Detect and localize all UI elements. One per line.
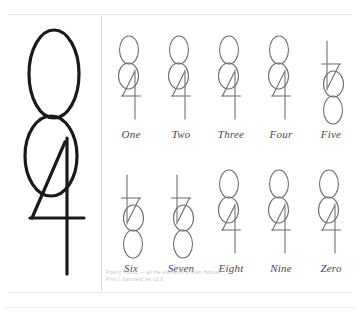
numeral-glyph-three	[214, 34, 248, 126]
numeral-cell-two: Two	[158, 22, 204, 140]
numeral-row: Six Seven	[108, 156, 354, 274]
numeral-glyph-eight	[214, 168, 248, 260]
numeral-glyph-six	[114, 168, 148, 260]
numeral-row: One Two	[108, 22, 354, 140]
numeral-label: Three	[218, 129, 244, 140]
numeral-glyph-four	[264, 34, 298, 126]
numeral-cell-six: Six	[108, 156, 154, 274]
vertical-divider	[101, 16, 102, 290]
numeral-label: Four	[270, 129, 293, 140]
attribution-block: Poetry ©2011 — all the elements of Alan …	[106, 269, 286, 282]
numeral-cell-seven: Seven	[158, 156, 204, 274]
numeral-glyph-seven	[164, 168, 198, 260]
poster-page: One Two	[0, 0, 359, 314]
numeral-cell-one: One	[108, 22, 154, 140]
numeral-label: Two	[172, 129, 191, 140]
numeral-label: Five	[321, 129, 341, 140]
numeral-label: One	[122, 129, 141, 140]
top-rule	[8, 14, 352, 15]
numeral-glyph-nine	[264, 168, 298, 260]
numeral-cell-zero: Zero	[308, 156, 354, 274]
bottom-rule	[8, 292, 352, 293]
numeral-glyph-five	[314, 34, 348, 126]
numeral-cell-three: Three	[208, 22, 254, 140]
numeral-glyph-two	[164, 34, 198, 126]
numeral-cell-five: Five	[308, 22, 354, 140]
numeral-cell-nine: Nine	[258, 156, 304, 274]
numeral-label: Zero	[320, 263, 341, 274]
attribution-line-2: Print / Ganzfeld set v2.0	[106, 276, 286, 283]
numeral-glyph-zero	[314, 168, 348, 260]
page-edge-rule	[4, 307, 356, 308]
numeral-cell-four: Four	[258, 22, 304, 140]
numeral-glyph-one	[114, 34, 148, 126]
large-composite-numeral	[18, 16, 98, 284]
numeral-cell-eight: Eight	[208, 156, 254, 274]
numeral-grid: One Two	[108, 22, 354, 266]
